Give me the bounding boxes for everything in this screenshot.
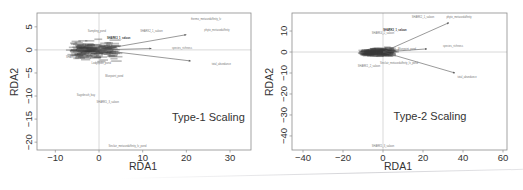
- site-label: SHARK5_3_saloon: [97, 100, 120, 104]
- y-tick-label: −10: [278, 65, 289, 81]
- y-tick-label: 0: [278, 49, 289, 54]
- x-tick-label: 40: [458, 152, 469, 163]
- figure: phyto_metasedaffinityspecies_richnesstot…: [0, 0, 523, 190]
- site-label: SHARK1_2_saloon: [66, 55, 89, 59]
- site-label: Sinclair_metasedaffinity_lv_pond: [380, 61, 418, 65]
- site-label: SHARK1_2_saloon: [358, 64, 381, 68]
- site-label: SHARK2_1_saloon: [140, 29, 163, 33]
- rda-biplots: phyto_metasedaffinityspecies_richnesstot…: [0, 0, 523, 190]
- site-label: Bluepoint_pond: [398, 47, 417, 51]
- site-point: [71, 43, 84, 45]
- site-point: [112, 53, 120, 55]
- annotation-type2-scaling: Type-2 Scaling: [394, 110, 467, 122]
- site-points-cluster: [358, 46, 399, 57]
- site-label: SHARK4_2_saloon: [372, 31, 395, 35]
- x-axis-label-plot1: RDA1: [129, 160, 157, 172]
- y-tick-label: −20: [23, 134, 34, 150]
- site-label: Sampling_pond: [88, 29, 107, 33]
- y-tick-label: −15: [23, 111, 34, 127]
- variable-label: total_abundance: [212, 62, 232, 66]
- annotation-type1-scaling: Type-1 Scaling: [172, 111, 245, 123]
- plot-type2-scaling: phyto_metasedaffinityspecies_richnesstot…: [278, 13, 508, 163]
- site-point: [72, 41, 81, 43]
- y-tick-label: −10: [23, 88, 34, 104]
- site-label: Lodgepole_pond: [92, 61, 112, 65]
- variable-label: phyto_metasedaffinity: [204, 28, 230, 32]
- plot-frame: [37, 13, 251, 150]
- y-axis-label-plot2: RDA2: [263, 68, 275, 96]
- site-point: [94, 38, 102, 40]
- x-axis-label-plot2: RDA1: [384, 160, 412, 172]
- site-label: SHARK2_1_saloon: [412, 15, 435, 19]
- variable-label: thermo_metasedaffinity_lv: [191, 17, 222, 21]
- site-point: [100, 42, 107, 44]
- variable-label: species_richness: [172, 46, 193, 50]
- site-label: SHARK3_1_saloon: [107, 36, 131, 40]
- site-label: Sinclair_metasedaffinity_lv_pond: [108, 144, 146, 148]
- y-tick-label: −20: [278, 86, 289, 102]
- x-tick-label: 0: [96, 152, 101, 163]
- x-tick-label: 20: [418, 152, 429, 163]
- x-tick-label: 30: [225, 152, 236, 163]
- site-label: SHARK5_3_saloon: [372, 144, 395, 148]
- variable-label: total_abundance: [457, 75, 477, 79]
- y-tick-label: 0: [23, 47, 34, 52]
- y-axis-label-plot1: RDA2: [8, 68, 20, 96]
- variable-label: phyto_metasedaffinity: [446, 15, 472, 19]
- site-point: [99, 59, 108, 61]
- y-tick-label: 5: [23, 24, 34, 29]
- y-tick-label: −40: [278, 128, 289, 144]
- x-tick-label: 60: [498, 152, 509, 163]
- y-tick-label: 10: [278, 26, 289, 37]
- x-tick-label: −20: [335, 152, 351, 163]
- plot-frame: [292, 13, 507, 150]
- variable-label: species_richness: [443, 44, 464, 48]
- x-tick-label: −40: [295, 152, 311, 163]
- site-point: [111, 60, 122, 62]
- arrowhead-icon: [149, 48, 151, 50]
- site-label: Bluepoint_pond: [105, 74, 124, 78]
- site-point: [85, 40, 94, 42]
- x-tick-label: −10: [47, 152, 63, 163]
- y-tick-label: −5: [23, 68, 34, 79]
- site-point: [96, 55, 103, 57]
- site-label: Sagebrush_bay: [77, 93, 96, 97]
- plot-type1-scaling: phyto_metasedaffinityspecies_richnesstot…: [23, 13, 251, 163]
- x-tick-label: 20: [181, 152, 192, 163]
- site-point: [110, 58, 117, 60]
- site-point: [83, 43, 94, 45]
- site-point: [108, 55, 117, 57]
- y-tick-label: −30: [278, 107, 289, 123]
- arrowhead-icon: [425, 48, 427, 50]
